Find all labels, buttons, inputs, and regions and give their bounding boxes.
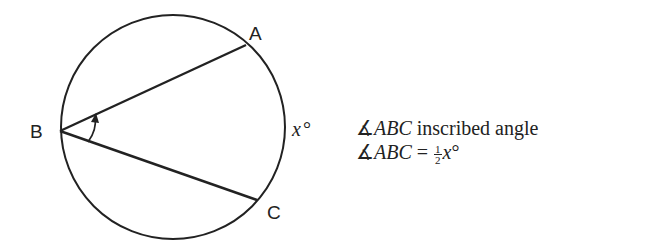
inscribed-angle-diagram: A B C x° — [0, 0, 665, 246]
frac-denominator: 2 — [434, 155, 442, 165]
angle-symbol-icon: ∡ — [356, 141, 374, 163]
equals-sign: = — [412, 141, 433, 163]
point-label-a: A — [249, 23, 262, 44]
angle-name: ABC — [374, 117, 412, 139]
degree-symbol: ° — [451, 141, 459, 163]
point-label-b: B — [30, 121, 43, 142]
angle-name: ABC — [374, 141, 412, 163]
fraction-one-half: 12 — [434, 144, 442, 165]
arc-label: x° — [291, 118, 311, 140]
point-label-c: C — [267, 202, 281, 223]
chord-ba — [60, 45, 246, 131]
note-inscribed-angle: ∡ABC inscribed angle — [356, 116, 538, 140]
note-text: inscribed angle — [412, 117, 539, 139]
chord-bc — [60, 131, 257, 200]
note-angle-formula: ∡ABC = 12x° — [356, 140, 459, 165]
angle-symbol-icon: ∡ — [356, 117, 374, 139]
